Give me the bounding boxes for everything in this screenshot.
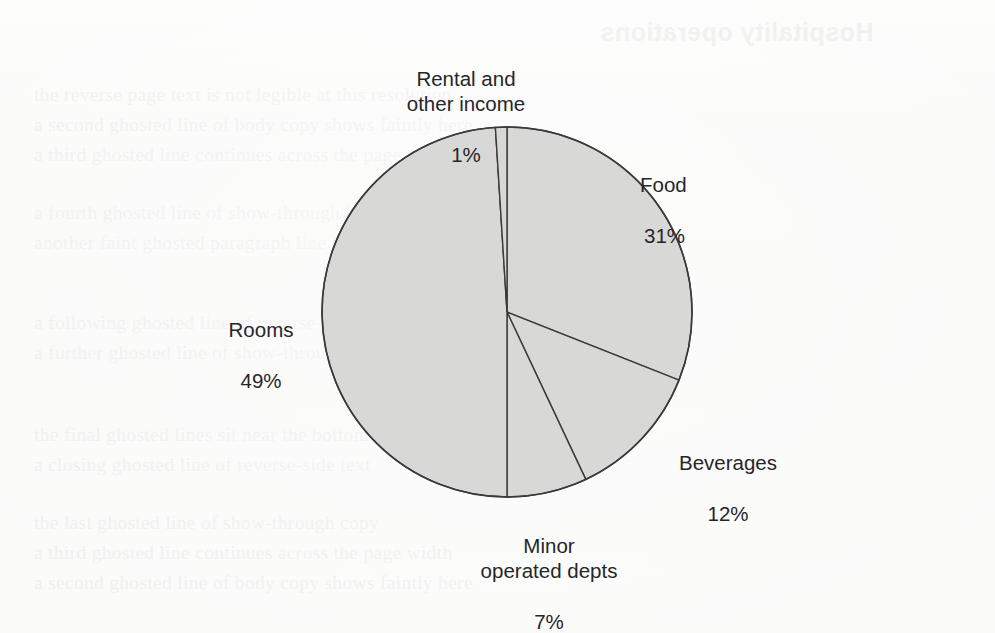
slice-label-name: Rental and other income	[373, 66, 559, 117]
slice-label-name: Food	[640, 172, 760, 198]
slice-label-percent: 49%	[186, 368, 336, 394]
slice-label-name: Rooms	[186, 317, 336, 343]
slice-label-percent: 31%	[640, 223, 760, 249]
slice-label-rooms: Rooms 49%	[186, 291, 336, 419]
slice-label-percent: 1%	[373, 142, 559, 168]
slice-label-name: Minor operated depts	[424, 533, 674, 584]
slice-label-minor-operated-depts: Minor operated depts 7%	[424, 507, 674, 633]
slice-label-name: Beverages	[648, 450, 808, 476]
slice-label-rental-and-other-income: Rental and other income 1%	[373, 40, 559, 193]
slice-label-food: Food 31%	[640, 146, 760, 274]
slice-label-percent: 7%	[424, 609, 674, 633]
